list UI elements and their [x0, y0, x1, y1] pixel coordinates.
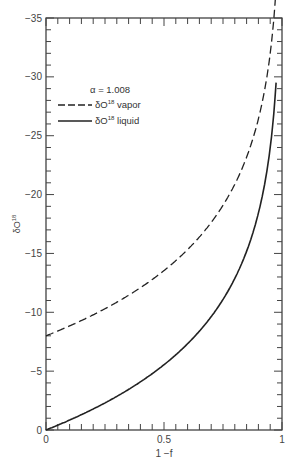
- legend-vapor-label: δO18 vapor: [95, 99, 141, 110]
- legend: α = 1.008 δO18 vapor δO18 liquid: [58, 84, 141, 126]
- y-tick-label: −25: [25, 130, 42, 141]
- y-tick-label: −30: [25, 71, 42, 82]
- rayleigh-chart: 0−5−10−15−20−25−30−3500.51 1 −f δO18 α =…: [0, 0, 298, 468]
- y-tick-label: −15: [25, 248, 42, 259]
- liquid-curve: [46, 83, 276, 430]
- axis-ticks: 0−5−10−15−20−25−30−3500.51: [25, 13, 285, 446]
- legend-liquid-label: δO18 liquid: [95, 115, 139, 126]
- y-tick-label: −20: [25, 189, 42, 200]
- y-tick-label: −35: [25, 13, 42, 24]
- x-tick-label: 0: [43, 434, 49, 445]
- y-tick-label: −10: [25, 307, 42, 318]
- y-tick-label: −5: [31, 366, 43, 377]
- data-curves: [46, 0, 276, 430]
- x-tick-label: 1: [279, 434, 285, 445]
- y-tick-label: 0: [36, 425, 42, 436]
- y-axis-label: δO18: [11, 214, 22, 233]
- plot-frame: [46, 18, 282, 430]
- alpha-annotation: α = 1.008: [90, 84, 130, 95]
- vapor-curve: [46, 0, 276, 336]
- x-tick-label: 0.5: [157, 434, 171, 445]
- x-axis-label: 1 −f: [156, 448, 173, 459]
- plot-area: [46, 18, 282, 430]
